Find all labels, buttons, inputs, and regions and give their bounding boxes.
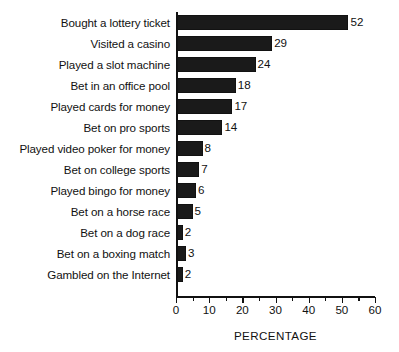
category-label: Gambled on the Internet xyxy=(0,264,173,285)
bar-value-label: 6 xyxy=(198,182,204,198)
x-tick-label: 60 xyxy=(369,303,382,317)
bar-row: 2 xyxy=(176,264,376,285)
bar-value-label: 2 xyxy=(185,224,191,240)
bar-row: 14 xyxy=(176,117,376,138)
bar-row: 5 xyxy=(176,201,376,222)
category-label: Bought a lottery ticket xyxy=(0,12,173,33)
x-tick-minor xyxy=(292,297,293,301)
bar-value-label: 52 xyxy=(350,14,363,30)
x-tick-label: 10 xyxy=(203,303,216,317)
bar-value-label: 14 xyxy=(224,119,237,135)
category-axis-labels: Bought a lottery ticketVisited a casinoP… xyxy=(0,12,173,285)
bar xyxy=(176,120,222,135)
category-label: Bet in an office pool xyxy=(0,75,173,96)
bar xyxy=(176,162,199,177)
category-label: Visited a casino xyxy=(0,33,173,54)
category-label: Played cards for money xyxy=(0,96,173,117)
x-tick-label: 20 xyxy=(236,303,249,317)
category-label: Played bingo for money xyxy=(0,180,173,201)
bar-row: 18 xyxy=(176,75,376,96)
bar-value-label: 5 xyxy=(195,203,201,219)
bar xyxy=(176,36,272,51)
category-label: Bet on a dog race xyxy=(0,222,173,243)
bar-row: 3 xyxy=(176,243,376,264)
x-axis-title: PERCENTAGE xyxy=(176,329,375,342)
bar-value-label: 17 xyxy=(234,98,247,114)
bar xyxy=(176,183,196,198)
bar-chart: Bought a lottery ticketVisited a casinoP… xyxy=(0,0,399,352)
bar xyxy=(176,99,232,114)
bar-value-label: 2 xyxy=(185,266,191,282)
bar-value-label: 24 xyxy=(258,56,271,72)
plot-area: 5229241817148765232 xyxy=(176,12,376,296)
x-tick-label: 30 xyxy=(269,303,282,317)
x-tick-minor xyxy=(226,297,227,301)
bar-value-label: 3 xyxy=(188,245,194,261)
bar xyxy=(176,204,193,219)
x-tick-label: 50 xyxy=(335,303,348,317)
bar-row: 29 xyxy=(176,33,376,54)
bar-row: 6 xyxy=(176,180,376,201)
category-label: Bet on pro sports xyxy=(0,117,173,138)
bar xyxy=(176,57,256,72)
bar-row: 7 xyxy=(176,159,376,180)
x-tick-minor xyxy=(259,297,260,301)
bar xyxy=(176,141,203,156)
bar-value-label: 18 xyxy=(238,77,251,93)
x-tick-label: 40 xyxy=(302,303,315,317)
bar-row: 2 xyxy=(176,222,376,243)
bar-row: 17 xyxy=(176,96,376,117)
x-tick-minor xyxy=(358,297,359,301)
bar-value-label: 7 xyxy=(201,161,207,177)
x-tick-label: 0 xyxy=(173,303,179,317)
category-label: Bet on college sports xyxy=(0,159,173,180)
category-label: Played a slot machine xyxy=(0,54,173,75)
bar xyxy=(176,15,348,30)
bar-row: 52 xyxy=(176,12,376,33)
bar-row: 24 xyxy=(176,54,376,75)
x-tick-minor xyxy=(325,297,326,301)
category-label: Played video poker for money xyxy=(0,138,173,159)
category-label: Bet on a horse race xyxy=(0,201,173,222)
category-label: Bet on a boxing match xyxy=(0,243,173,264)
bar-value-label: 29 xyxy=(274,35,287,51)
x-tick-minor xyxy=(193,297,194,301)
bar xyxy=(176,78,236,93)
y-axis-line xyxy=(176,12,178,297)
bar-value-label: 8 xyxy=(205,140,211,156)
bar-row: 8 xyxy=(176,138,376,159)
